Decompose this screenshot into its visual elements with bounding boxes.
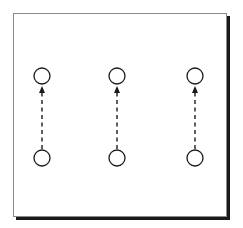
node-1-top <box>34 68 50 84</box>
node-1-bottom <box>34 150 50 166</box>
node-3-bottom <box>187 150 203 166</box>
node-2-bottom <box>109 150 125 166</box>
node-2-top <box>109 68 125 84</box>
node-3-top <box>187 68 203 84</box>
diagram-canvas <box>0 0 243 228</box>
